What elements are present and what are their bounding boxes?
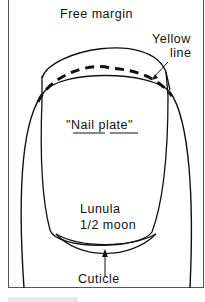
yellow-line-arrowhead (152, 74, 158, 80)
label-nail-plate: "Nail plate" (66, 118, 133, 132)
label-line: line (170, 46, 191, 60)
label-lunula: Lunula (80, 202, 121, 216)
cuticle-curve (56, 234, 156, 254)
label-free-margin: Free margin (60, 7, 133, 21)
label-yellow: Yellow (152, 32, 191, 46)
yellow-line-dashed (38, 67, 172, 102)
label-half-moon: 1/2 moon (80, 218, 136, 232)
nail-free-edge (42, 48, 170, 90)
caption-stub (8, 297, 78, 302)
label-cuticle: Cuticle (78, 272, 120, 286)
